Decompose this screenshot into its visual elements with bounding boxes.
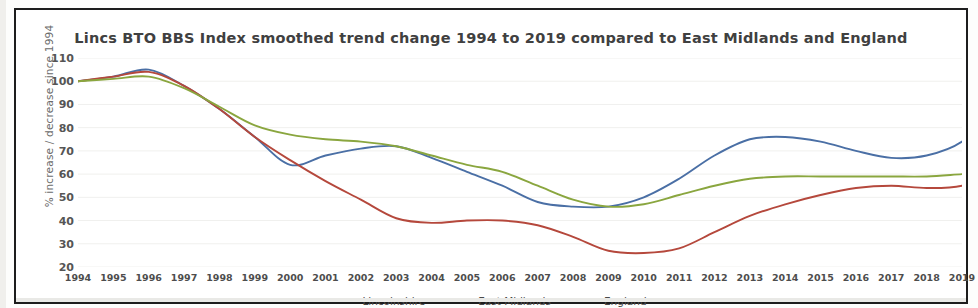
y-axis-tick: 50 bbox=[46, 191, 74, 204]
x-axis-tick: 2000 bbox=[277, 272, 303, 283]
x-axis-tick: 2007 bbox=[524, 272, 550, 283]
x-axis-tick: 1996 bbox=[135, 272, 161, 283]
y-axis-tick: 40 bbox=[46, 214, 74, 227]
series-line bbox=[78, 72, 962, 254]
y-axis-tick: 70 bbox=[46, 144, 74, 157]
plot-area bbox=[78, 58, 962, 267]
x-axis-tick: 1997 bbox=[171, 272, 197, 283]
x-axis-tick: 2013 bbox=[737, 272, 763, 283]
y-axis-tick: 60 bbox=[46, 168, 74, 181]
x-axis-tick: 2011 bbox=[666, 272, 692, 283]
x-axis-tick: 2014 bbox=[772, 272, 798, 283]
chart-frame: Lincs BTO BBS Index smoothed trend chang… bbox=[14, 8, 968, 304]
x-axis-tick: 1994 bbox=[65, 272, 91, 283]
x-axis-tick: 2004 bbox=[418, 272, 444, 283]
x-axis-tick: 2010 bbox=[631, 272, 657, 283]
x-axis-tick: 2001 bbox=[312, 272, 338, 283]
y-axis-tick: 90 bbox=[46, 98, 74, 111]
x-axis-tick: 2019 bbox=[949, 272, 975, 283]
x-axis-tick: 2016 bbox=[843, 272, 869, 283]
x-axis-tick: 2012 bbox=[701, 272, 727, 283]
x-axis-tick: 1999 bbox=[242, 272, 268, 283]
x-axis-tick: 2017 bbox=[878, 272, 904, 283]
x-axis-tick: 2018 bbox=[913, 272, 939, 283]
x-axis-tick-labels: 1994199519961997199819992000200120022003… bbox=[78, 272, 962, 288]
series-line bbox=[78, 76, 962, 207]
chart-title: Lincs BTO BBS Index smoothed trend chang… bbox=[16, 30, 966, 46]
y-axis-tick-labels: 1101009080706050403020 bbox=[44, 58, 74, 267]
x-axis-tick: 1998 bbox=[206, 272, 232, 283]
x-axis-tick: 2008 bbox=[560, 272, 586, 283]
chart-screenshot: Lincs BTO BBS Index smoothed trend chang… bbox=[0, 0, 978, 308]
y-axis-tick: 80 bbox=[46, 121, 74, 134]
x-axis-tick: 1995 bbox=[100, 272, 126, 283]
y-axis-tick: 30 bbox=[46, 237, 74, 250]
y-axis-tick: 110 bbox=[46, 52, 74, 65]
footer-strip bbox=[16, 298, 966, 302]
series-lines bbox=[78, 58, 962, 267]
x-axis-tick: 2006 bbox=[489, 272, 515, 283]
x-axis-tick: 2003 bbox=[383, 272, 409, 283]
series-line bbox=[78, 69, 962, 207]
page-left-edge bbox=[0, 0, 6, 308]
x-axis-tick: 2005 bbox=[454, 272, 480, 283]
x-axis-tick: 2002 bbox=[348, 272, 374, 283]
y-axis-tick: 100 bbox=[46, 75, 74, 88]
x-axis-tick: 2009 bbox=[595, 272, 621, 283]
x-axis-tick: 2015 bbox=[807, 272, 833, 283]
